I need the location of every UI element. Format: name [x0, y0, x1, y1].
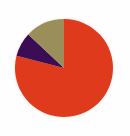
pie-chart-figure: Slice 1 79%Slice 2 8%Slice 3 13% Slice 1… [0, 0, 130, 136]
pie-slices-group: Slice 1 79%Slice 2 8%Slice 3 13% [15, 19, 113, 117]
pie-chart-canvas: Slice 1 79%Slice 2 8%Slice 3 13% [0, 0, 130, 136]
